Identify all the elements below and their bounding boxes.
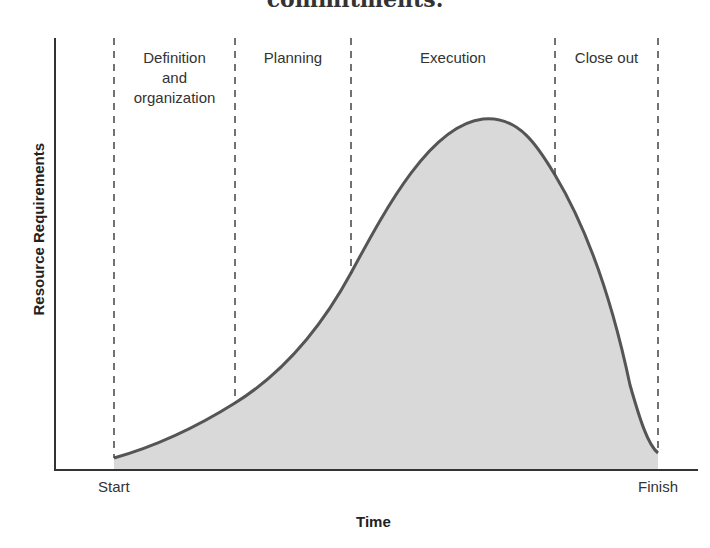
phase-label-close-out: Close out <box>555 48 658 68</box>
x-axis-label: Time <box>356 513 391 530</box>
phase-label-planning: Planning <box>235 48 351 68</box>
x-tick-finish: Finish <box>638 478 678 495</box>
phase-label-execution: Execution <box>351 48 555 68</box>
x-tick-start: Start <box>98 478 130 495</box>
resource-curve-chart <box>0 0 710 548</box>
y-axis-label: Resource Requirements <box>30 154 47 316</box>
phase-label-definition: Definition and organization <box>114 48 235 108</box>
resource-area-fill <box>114 119 658 470</box>
